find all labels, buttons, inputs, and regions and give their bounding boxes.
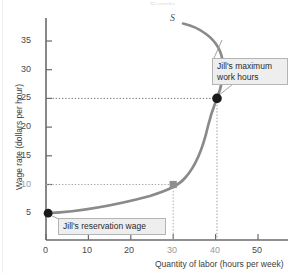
x-tick-label-10: 10 bbox=[82, 245, 92, 255]
labor-supply-chart-figure: Supply bbox=[0, 0, 298, 273]
y-axis-ticks bbox=[46, 41, 52, 213]
x-axis-ticks bbox=[46, 234, 258, 240]
x-tick-label-30: 30 bbox=[167, 245, 177, 255]
x-tick-label-40: 40 bbox=[210, 245, 220, 255]
x-axis-title: Quantity of labor (hours per week) bbox=[155, 259, 284, 269]
y-tick-label-35: 35 bbox=[21, 35, 31, 45]
reservation-wage-point bbox=[44, 209, 53, 218]
maximum-work-hours-point bbox=[212, 94, 222, 104]
x-tick-label-50: 50 bbox=[252, 245, 262, 255]
supply-curve-label: S bbox=[170, 12, 175, 23]
y-tick-label-5: 5 bbox=[26, 207, 31, 217]
x-tick-label-0: 0 bbox=[43, 245, 48, 255]
y-axis-title: Wage rate (dollars per hour) bbox=[14, 84, 24, 190]
x-tick-label-20: 20 bbox=[124, 245, 134, 255]
callout-reservation-wage: Jill's reservation wage bbox=[58, 218, 166, 235]
mid-point-marker bbox=[170, 181, 177, 188]
y-tick-label-30: 30 bbox=[21, 64, 31, 74]
callout-maximum-work-hours: Jill's maximum work hours bbox=[212, 58, 288, 85]
